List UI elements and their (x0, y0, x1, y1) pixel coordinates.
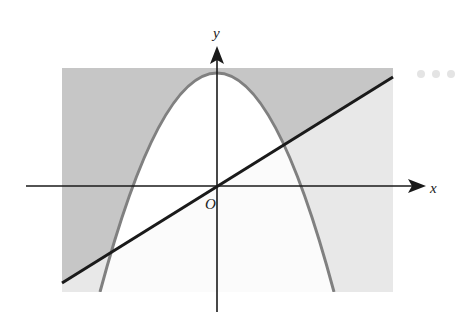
inequality-graph: x y O (0, 0, 456, 326)
dot (447, 70, 455, 78)
y-axis-label: y (211, 25, 220, 41)
more-horizontal-icon[interactable] (417, 70, 455, 78)
dot (417, 70, 425, 78)
origin-label: O (205, 196, 216, 212)
x-axis-label: x (429, 180, 437, 196)
dot (432, 70, 440, 78)
